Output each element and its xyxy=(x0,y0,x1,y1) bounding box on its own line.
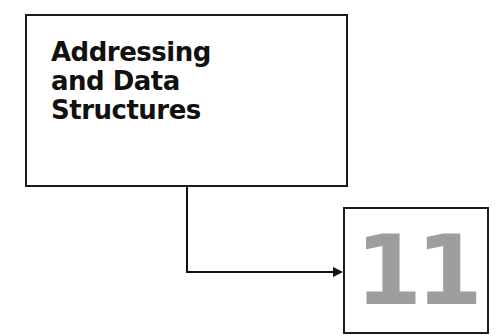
title-line-1: Addressing xyxy=(51,38,211,67)
chapter-number: 11 xyxy=(345,221,487,321)
chapter-title: Addressing and Data Structures xyxy=(51,38,211,125)
connector-vertical-line xyxy=(186,187,188,273)
title-line-3: Structures xyxy=(51,96,211,125)
title-line-2: and Data xyxy=(51,67,211,96)
chapter-number-box: 11 xyxy=(343,207,489,334)
chapter-title-box: Addressing and Data Structures xyxy=(25,14,348,187)
arrow-head-icon xyxy=(333,267,343,277)
connector-horizontal-line xyxy=(186,271,334,273)
